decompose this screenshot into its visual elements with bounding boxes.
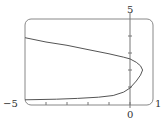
plot-area: −5 0 1 5 [0, 0, 165, 126]
curve-line [25, 38, 143, 100]
x-label-min: −5 [3, 98, 18, 109]
x-label-zero: 0 [127, 109, 133, 120]
x-label-max: 1 [155, 98, 161, 109]
plot-frame [25, 19, 153, 105]
y-label-max: 5 [127, 4, 133, 15]
